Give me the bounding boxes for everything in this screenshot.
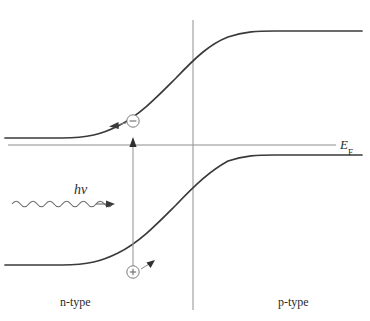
optical-transition-arrow-head [129, 137, 136, 147]
n-type-region-label: n-type [60, 296, 91, 308]
fermi-level-label: EF [340, 138, 353, 155]
valence-band-curve [5, 155, 362, 265]
conduction-band-curve [5, 31, 362, 138]
band-diagram-canvas [0, 0, 370, 321]
hole-drift-arrow-head [147, 260, 156, 268]
hole-drift-arrow-shaft [141, 264, 149, 269]
band-diagram-figure: EF hν n-type p-type [0, 0, 370, 321]
fermi-level-subscript: F [348, 147, 353, 157]
photon-label: hν [74, 183, 87, 197]
fermi-level-letter: E [340, 137, 348, 152]
p-type-region-label: p-type [278, 296, 309, 308]
